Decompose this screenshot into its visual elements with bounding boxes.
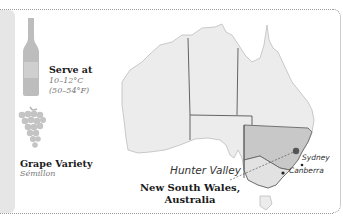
tasmania-island [260, 196, 272, 210]
grape-variety-value: Sémillon [20, 169, 55, 178]
serve-at-label: Serve at [49, 64, 92, 75]
sidebar-strip [0, 10, 15, 213]
canberra-label: Canberra [289, 166, 324, 175]
wine-bottle-icon [22, 18, 40, 96]
serve-temp-fahrenheit: (50–54°F) [49, 86, 89, 95]
grape-variety-label: Grape Variety [20, 158, 93, 169]
region-caption: New South Wales, Australia [130, 182, 250, 206]
sydney-label: Sydney [302, 153, 330, 162]
grape-cluster-icon [17, 105, 47, 153]
region-caption-line2: Australia [130, 194, 250, 206]
region-caption-line1: New South Wales, [130, 182, 250, 194]
serve-temp-celsius: 10–12°C [49, 76, 83, 85]
hunter-valley-label: Hunter Valley [170, 164, 241, 176]
canberra-dot [281, 171, 284, 174]
